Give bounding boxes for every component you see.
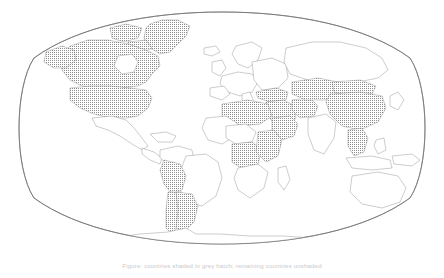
region-new-zealand[interactable]	[410, 198, 424, 216]
figure-caption: Figure: countries shaded in grey hatch; …	[0, 262, 444, 270]
world-map-figure: Figure: countries shaded in grey hatch; …	[0, 0, 444, 278]
map-canvas[interactable]	[0, 0, 444, 252]
world-map-svg[interactable]	[0, 0, 444, 252]
